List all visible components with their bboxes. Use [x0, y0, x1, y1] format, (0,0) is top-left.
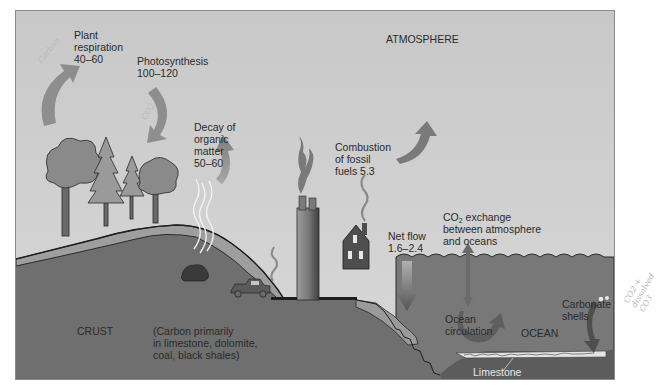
decay-label: Decay of organic matter 50–60 — [194, 121, 235, 169]
diagram-frame: ATMOSPHERE Plant respiration 40–60 Photo… — [15, 10, 615, 380]
plant-respiration-label: Plant respiration 40–60 — [74, 29, 123, 65]
handwritten-margin-note: CO2 + dissolved CO3 — [622, 267, 659, 313]
ocean-label: OCEAN — [521, 327, 558, 339]
ocean-circulation-label: Ocean circulation — [445, 313, 492, 337]
limestone-label: Limestone — [473, 366, 521, 378]
power-plant — [297, 196, 319, 300]
crust-note: (Carbon primarily in limestone, dolomite… — [153, 325, 257, 361]
co2-exchange-label: CO2 exchange between atmosphere and ocea… — [443, 211, 541, 247]
atmosphere-label: ATMOSPHERE — [386, 33, 459, 45]
combustion-label: Combustion of fossil fuels 5.3 — [335, 141, 391, 177]
carbon-cycle-scene — [16, 11, 614, 379]
photosynthesis-label: Photosynthesis 100–120 — [137, 55, 208, 79]
carbonate-shells-label: Carbonate shells — [562, 298, 611, 322]
net-flow-label: Net flow 1.6–2.4 — [388, 230, 426, 254]
crust-label: CRUST — [77, 325, 113, 337]
